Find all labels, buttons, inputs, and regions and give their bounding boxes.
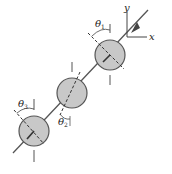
theta-3-label: θ3 (18, 98, 28, 110)
theta-2-label: θ2 (58, 116, 68, 128)
shaft-disk-diagram: y x θ1 θ2 θ3 (0, 0, 172, 174)
disk-3: θ3 (14, 98, 49, 162)
x-axis-label: x (149, 31, 155, 42)
disk-1: θ1 (88, 18, 125, 85)
y-axis-label: y (123, 2, 130, 13)
theta-1-label: θ1 (95, 18, 105, 30)
disk-2: θ2 (57, 62, 87, 128)
